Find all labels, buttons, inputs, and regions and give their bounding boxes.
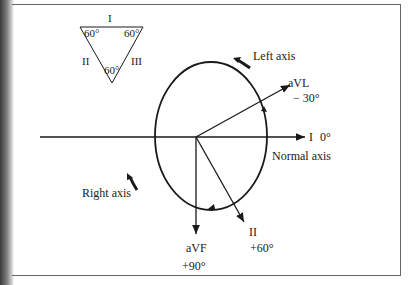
normal-range-arrow-left xyxy=(208,204,215,209)
axis-circle xyxy=(155,62,267,210)
triangle-lead-II: II xyxy=(82,56,89,67)
triangle-angle-top-left: 60° xyxy=(84,28,99,39)
aVF-label: aVF xyxy=(186,242,207,254)
left-axis-label: Left axis xyxy=(253,50,295,62)
triangle-angle-bottom: 60° xyxy=(104,65,119,76)
normal-axis-label: Normal axis xyxy=(272,150,331,162)
lead-I-angle: 0° xyxy=(320,131,331,143)
right-axis-arrow xyxy=(130,177,137,190)
triangle-angle-top-right: 60° xyxy=(124,28,139,39)
lead-II-label: II xyxy=(249,226,257,238)
lead-II-angle: +60° xyxy=(250,242,274,254)
lead-I-label: I xyxy=(309,131,313,143)
lead-aVL-axis xyxy=(196,85,290,137)
triangle-lead-III: III xyxy=(131,56,142,67)
right-axis-label: Right axis xyxy=(82,187,131,199)
aVL-label: aVL xyxy=(288,77,309,89)
aVF-angle: +90° xyxy=(182,260,206,272)
aVL-angle: − 30° xyxy=(293,92,320,104)
triangle-lead-I: I xyxy=(108,13,112,24)
